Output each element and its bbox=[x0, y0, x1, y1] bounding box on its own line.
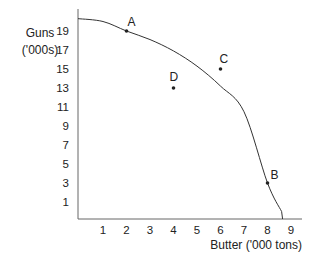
point-b-marker bbox=[266, 181, 270, 185]
y-tick-label: 9 bbox=[63, 120, 69, 132]
point-c-label: C bbox=[220, 52, 229, 66]
ppf-curve bbox=[78, 19, 283, 219]
y-tick-label: 5 bbox=[63, 158, 69, 170]
x-tick-label: 1 bbox=[100, 224, 106, 236]
y-tick-label: 17 bbox=[56, 44, 69, 56]
data-points: ABCD bbox=[125, 15, 279, 185]
y-tick-label: 1 bbox=[63, 196, 69, 208]
y-tick-label: 15 bbox=[56, 63, 69, 75]
y-tick-label: 13 bbox=[56, 82, 69, 94]
point-a-label: A bbox=[128, 15, 136, 29]
y-axis-title: Guns ('000s) bbox=[22, 26, 58, 57]
x-tick-label: 6 bbox=[217, 224, 223, 236]
x-tick-label: 7 bbox=[241, 224, 247, 236]
y-tick-label: 7 bbox=[63, 139, 69, 151]
x-tick-label: 8 bbox=[264, 224, 270, 236]
x-tick-label: 2 bbox=[123, 224, 129, 236]
y-axis-title-line-2: ('000s) bbox=[22, 43, 58, 57]
x-tick-label: 4 bbox=[170, 224, 177, 236]
x-axis-title: Butter ('000 tons) bbox=[210, 238, 302, 252]
x-tick-label: 3 bbox=[147, 224, 153, 236]
point-d-marker bbox=[172, 86, 176, 90]
y-tick-label: 3 bbox=[63, 177, 69, 189]
point-a-marker bbox=[125, 29, 129, 33]
y-tick-label: 19 bbox=[56, 25, 69, 37]
x-axis-ticks: 123456789 bbox=[100, 224, 294, 236]
ppf-chart: Guns ('000s) 135791113151719 123456789 B… bbox=[0, 0, 314, 255]
point-d-label: D bbox=[170, 70, 179, 84]
y-tick-label: 11 bbox=[57, 101, 69, 113]
point-b-label: B bbox=[271, 168, 279, 182]
x-tick-label: 5 bbox=[194, 224, 200, 236]
y-axis-ticks: 135791113151719 bbox=[56, 25, 69, 208]
y-axis-title-line-1: Guns bbox=[26, 26, 55, 40]
x-tick-label: 9 bbox=[288, 224, 294, 236]
point-c-marker bbox=[219, 67, 223, 71]
